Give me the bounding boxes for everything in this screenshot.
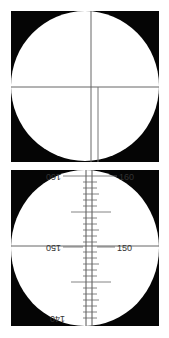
scale-reticle-graphic: 160 160 150 150 140 <box>11 170 159 326</box>
scale-label-bottom-left: 140 <box>50 314 65 324</box>
scale-label-top-right: 160 <box>119 172 134 182</box>
reticle-panel-crosshair <box>11 11 159 162</box>
field-of-view-circle <box>11 11 159 161</box>
scale-label-top-left: 160 <box>46 172 61 182</box>
crosshair-reticle-graphic <box>11 11 159 162</box>
reticle-panel-scale: 160 160 150 150 140 <box>11 170 159 326</box>
scale-label-middle-right: 150 <box>117 243 132 253</box>
field-of-view-circle <box>11 170 159 326</box>
scale-label-middle-left: 150 <box>46 243 61 253</box>
